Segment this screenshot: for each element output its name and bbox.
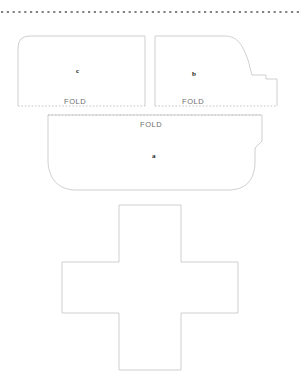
fold-label-a: FOLD bbox=[140, 120, 162, 129]
panel-c-outline[interactable] bbox=[18, 36, 145, 106]
fold-label-c: FOLD bbox=[64, 97, 86, 106]
panel-b-outline[interactable] bbox=[155, 36, 277, 106]
fold-label-b: FOLD bbox=[182, 97, 204, 106]
panel-label-c: c bbox=[76, 67, 79, 75]
panel-label-b: b bbox=[192, 70, 196, 78]
panel-label-a: a bbox=[152, 152, 156, 160]
panel-cross-outline[interactable] bbox=[62, 205, 238, 370]
fold-template-canvas bbox=[0, 0, 300, 384]
